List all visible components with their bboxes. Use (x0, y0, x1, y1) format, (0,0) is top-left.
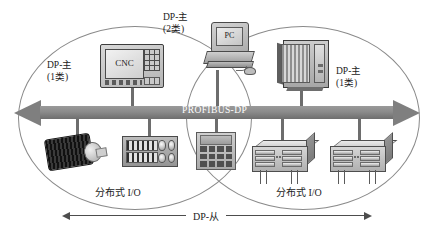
plc-base (286, 87, 324, 91)
label-dp-master-pc-line1: DP-主 (163, 12, 188, 22)
rack1-lead-2 (266, 170, 267, 184)
device-pc-workstation: PC (203, 22, 255, 74)
profibus-bus: PROFIBUS-DP (14, 100, 420, 126)
rack1-right-slots (282, 149, 302, 167)
device-motor-drive (46, 132, 108, 170)
label-dp-master-left-line1: DP-主 (47, 60, 72, 70)
device-operator-keypad-panel (196, 132, 236, 170)
hmi-keypad (200, 146, 232, 167)
io-block-connector-ports (158, 140, 175, 163)
rack2-lead-3 (369, 170, 370, 184)
scope-arrow-right-icon (364, 212, 372, 220)
label-dp-master-class1-left: DP-主 (1类) (47, 60, 72, 83)
label-dp-master-class1-right: DP-主 (1类) (336, 66, 361, 89)
rack1-lead-1 (260, 170, 261, 184)
io-block-terminal-rows (126, 140, 158, 163)
rack2-left-slots (333, 149, 353, 167)
plc-module-cards (281, 44, 310, 83)
rack2-status-dots-icon (354, 156, 359, 159)
label-dp-slave: DP-从 (186, 208, 226, 223)
device-distributed-io-rack-1 (252, 140, 314, 170)
rack2-lead-2 (344, 170, 345, 184)
device-plc-rack (277, 40, 329, 88)
rack1-lead-3 (291, 170, 292, 184)
dp-slave-scope-arrow: DP-从 (62, 208, 372, 224)
label-dp-master-right-line2: (1类) (336, 78, 361, 90)
pc-screen: PC (216, 27, 243, 46)
label-dp-master-pc-line2: (2类) (163, 24, 188, 36)
device-distributed-io-rack-2 (330, 140, 392, 170)
label-distributed-io-right: 分布式 I/O (276, 184, 322, 199)
cnc-keypad (144, 49, 160, 71)
bus-label: PROFIBUS-DP (182, 105, 247, 115)
io-block-terminal-row (126, 152, 158, 163)
hmi-display (200, 135, 232, 145)
cnc-soft-key-strip (105, 80, 142, 85)
plc-led-1-icon (318, 64, 323, 67)
motor-shaft (95, 147, 107, 158)
cnc-screen: CNC (105, 49, 144, 79)
bus-arrow-right-icon (393, 100, 420, 126)
cnc-function-keys (144, 77, 160, 85)
rack2-lead-1 (338, 170, 339, 184)
io-block-terminal-row (126, 140, 158, 151)
pc-monitor: PC (211, 22, 249, 53)
cnc-screen-label: CNC (106, 58, 143, 68)
label-dp-master-class2: DP-主 (2类) (163, 12, 188, 35)
device-terminal-io-module (122, 136, 178, 167)
rack1-lead-4 (297, 170, 298, 184)
label-distributed-io-left: 分布式 I/O (95, 184, 141, 199)
rack1-status-dots-icon (276, 156, 281, 159)
pc-mouse (244, 67, 256, 75)
profibus-dp-diagram: PROFIBUS-DP CNC DP-主 (1类) PC DP-主 (2类) (0, 0, 434, 239)
pc-screen-label: PC (217, 31, 242, 40)
label-dp-master-left-line2: (1类) (47, 72, 72, 84)
rack1-left-slots (255, 149, 275, 167)
rack2-right-slots (360, 149, 380, 167)
rack2-lead-4 (375, 170, 376, 184)
device-cnc-controller: CNC (100, 44, 164, 88)
plc-led-2-icon (318, 70, 323, 73)
label-dp-master-right-line1: DP-主 (336, 66, 361, 76)
bus-arrow-left-icon (14, 100, 41, 126)
